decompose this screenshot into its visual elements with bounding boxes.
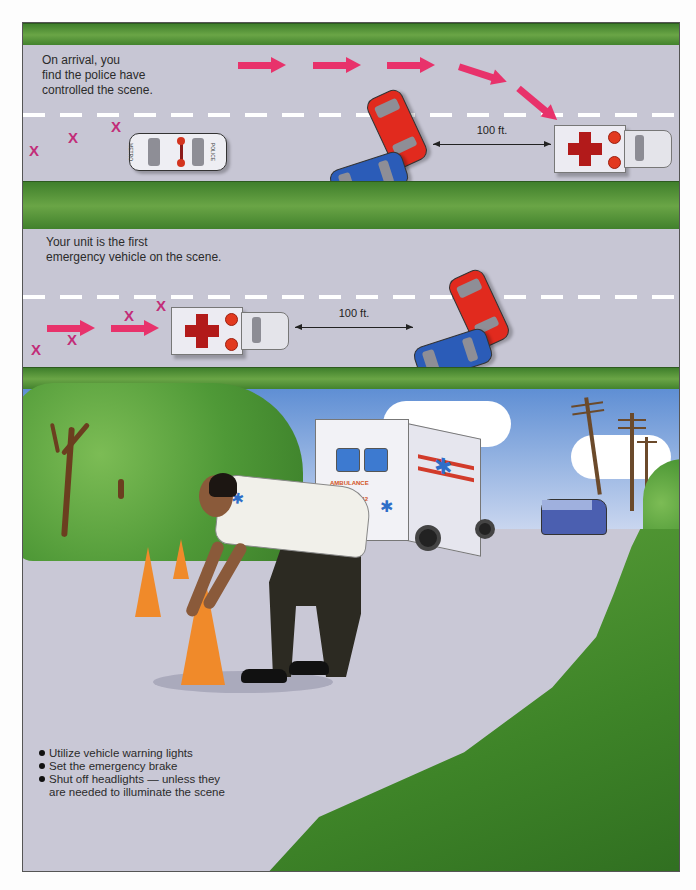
cone-marker-icon: X bbox=[111, 118, 121, 135]
checklist-item: Set the emergency brake bbox=[49, 760, 239, 773]
parked-car bbox=[541, 499, 607, 535]
shoe bbox=[241, 669, 287, 683]
windshield bbox=[252, 317, 261, 343]
cone-marker-icon: X bbox=[68, 129, 78, 146]
police-car: METRO POLICE bbox=[129, 133, 227, 171]
warning-light-icon bbox=[225, 338, 238, 351]
checklist-item: Shut off headlights — unless they are ne… bbox=[49, 773, 239, 799]
caption-line: find the police have bbox=[42, 68, 153, 83]
windshield bbox=[192, 138, 204, 166]
caption-top: On arrival, you find the police have con… bbox=[42, 53, 153, 98]
cone-marker-icon: X bbox=[156, 297, 166, 314]
wheel bbox=[475, 519, 495, 539]
grass-strip bbox=[23, 23, 679, 47]
red-cross-icon bbox=[579, 132, 591, 166]
road-middle: Your unit is the first emergency vehicle… bbox=[23, 229, 679, 367]
wheel bbox=[415, 525, 441, 551]
cone-marker-icon: X bbox=[67, 331, 77, 348]
ambulance-topdown bbox=[554, 125, 674, 173]
shoe bbox=[289, 661, 329, 675]
police-car-text: METRO bbox=[128, 143, 134, 161]
rear-window bbox=[542, 500, 592, 510]
road-top: On arrival, you find the police have con… bbox=[23, 45, 679, 181]
ambulance-cab bbox=[241, 312, 289, 350]
ambulance-cab bbox=[624, 130, 672, 168]
rear-window bbox=[336, 448, 360, 472]
distance-label: 100 ft. bbox=[433, 124, 551, 136]
pole-arm bbox=[637, 441, 657, 443]
windshield bbox=[456, 278, 483, 299]
arrow-icon bbox=[514, 83, 561, 126]
illustration-panel: On arrival, you find the police have con… bbox=[22, 22, 680, 872]
arrow-icon bbox=[313, 58, 361, 72]
windshield bbox=[462, 336, 479, 362]
checklist-item: Utilize vehicle warning lights bbox=[49, 747, 239, 760]
light-bar-icon bbox=[180, 139, 183, 165]
distance-label: 100 ft. bbox=[295, 307, 413, 319]
arrow-icon bbox=[387, 58, 435, 72]
pole-arm bbox=[618, 419, 646, 421]
warning-light-icon bbox=[608, 131, 621, 144]
distance-arrow-icon bbox=[295, 327, 413, 328]
caption-middle: Your unit is the first emergency vehicle… bbox=[46, 235, 221, 265]
ambulance-box bbox=[554, 125, 626, 173]
traffic-cone bbox=[135, 547, 161, 617]
windshield bbox=[148, 138, 160, 166]
warning-light-icon bbox=[608, 156, 621, 169]
distance-indicator: 100 ft. bbox=[295, 321, 413, 333]
tree-stump bbox=[118, 479, 124, 499]
cone-marker-icon: X bbox=[124, 307, 134, 324]
caption-line: controlled the scene. bbox=[42, 83, 153, 98]
lane-divider bbox=[23, 295, 679, 299]
windshield bbox=[635, 135, 644, 161]
star-of-life-icon: ✱ bbox=[434, 454, 452, 480]
utility-pole bbox=[630, 413, 634, 511]
arrow-icon bbox=[238, 58, 286, 72]
cone-marker-icon: X bbox=[29, 142, 39, 159]
police-car-text: POLICE bbox=[210, 143, 216, 161]
pole-arm bbox=[618, 427, 646, 429]
red-cross-icon bbox=[196, 314, 208, 348]
person-hair bbox=[209, 473, 237, 497]
caption-line: emergency vehicle on the scene. bbox=[46, 250, 221, 265]
distance-arrow-icon bbox=[433, 144, 551, 145]
rear-window bbox=[364, 448, 388, 472]
distance-indicator: 100 ft. bbox=[433, 138, 551, 150]
arrow-icon bbox=[111, 321, 159, 335]
safety-checklist: Utilize vehicle warning lights Set the e… bbox=[37, 747, 239, 799]
lane-divider bbox=[23, 113, 679, 117]
scene-illustration: ✱ AMBULANCE No. 42 ✱ ✱ bbox=[23, 389, 679, 872]
caption-line: Your unit is the first bbox=[46, 235, 221, 250]
arrow-icon bbox=[457, 60, 509, 89]
ambulance-box bbox=[171, 307, 243, 355]
ambulance-topdown bbox=[171, 307, 291, 355]
cone-marker-icon: X bbox=[31, 341, 41, 358]
star-of-life-icon: ✱ bbox=[380, 496, 393, 518]
warning-light-icon bbox=[225, 313, 238, 326]
grass-strip bbox=[23, 181, 679, 231]
windshield bbox=[374, 98, 401, 119]
caption-line: On arrival, you bbox=[42, 53, 153, 68]
